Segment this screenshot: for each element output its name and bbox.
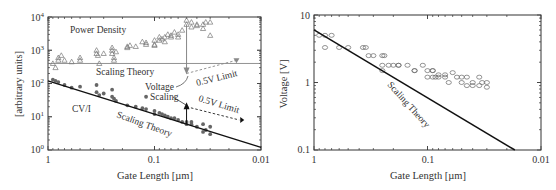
figure: 100 101 102 103 104 1 0.1 0.01 Gate Leng… (0, 0, 556, 190)
voltage-point (464, 75, 469, 79)
arrowhead-icon (233, 58, 239, 63)
power-density-point (59, 53, 64, 58)
power-density-point (95, 53, 100, 58)
left-ytick-3: 103 (31, 44, 45, 56)
right-ytick-2: 10 (300, 10, 310, 21)
power-density-point (162, 39, 167, 44)
annotation-limit-upper: 0.5V Limit (195, 68, 239, 88)
left-ytick-1: 101 (31, 110, 45, 122)
voltage-point (446, 81, 451, 85)
voltage-point (405, 63, 410, 67)
left-ytick-0: 100 (31, 143, 45, 155)
power-density-point (62, 58, 67, 63)
cvi-point (102, 92, 106, 96)
cvi-point (110, 88, 114, 92)
arrowhead-icon (184, 102, 190, 109)
arrowhead-icon (240, 117, 244, 123)
voltage-point (412, 69, 417, 73)
voltage-point (396, 63, 401, 67)
right-ticks (314, 15, 541, 150)
voltage-scaling-pointer-upper (176, 76, 188, 87)
right-data-points (317, 33, 490, 89)
right-xaxis-title: Gate Length [µm] (390, 170, 466, 181)
right-plot-frame (314, 15, 541, 150)
right-xtick-1: 0.1 (422, 154, 435, 165)
left-xtick-1: 0.1 (148, 154, 161, 165)
right-ytick-1: 1 (305, 77, 310, 88)
left-ytick-2: 102 (31, 77, 45, 89)
right-plot: 0.1 1 10 1 0.1 0.01 Gate Length [µm] Vol… (278, 10, 550, 181)
voltage-point (477, 75, 482, 79)
left-plot: 100 101 102 103 104 1 0.1 0.01 Gate Leng… (13, 11, 270, 181)
power-density-point (172, 30, 177, 35)
power-density-point (133, 44, 138, 49)
power-density-point (208, 33, 213, 38)
voltage-point (329, 33, 334, 37)
annotation-cvi: CV/I (72, 104, 91, 114)
cvi-point (144, 95, 148, 99)
cvi-point (95, 83, 99, 87)
voltage-point (484, 85, 489, 89)
cvi-point (201, 122, 205, 126)
power-density-point (180, 28, 185, 33)
cvi-point (95, 90, 99, 94)
voltage-point (380, 63, 385, 67)
left-yaxis-title: [arbitrary units] (13, 51, 24, 117)
left-xtick-2: 0.01 (252, 154, 270, 165)
scaling-theory-line-voltage (314, 30, 515, 150)
right-xtick-2: 0.01 (532, 154, 550, 165)
power-density-point (101, 51, 106, 56)
annotation-scaling: Scaling (150, 92, 179, 102)
cvi-point (208, 132, 212, 136)
cvi-point (190, 120, 194, 124)
voltage-point (425, 75, 430, 79)
voltage-point (459, 81, 464, 85)
annotation-limit-lower: 0.5V Limit (197, 93, 240, 115)
voltage-point (425, 69, 430, 73)
right-xtick-0: 1 (312, 154, 317, 165)
annotation-scaling-theory-upper: Scaling Theory (96, 67, 154, 77)
voltage-point (430, 69, 435, 73)
voltage-point (420, 63, 425, 67)
cvi-point (208, 125, 212, 129)
right-yaxis-title: Voltage [V] (278, 59, 289, 108)
power-density-point (189, 20, 194, 25)
voltage-point (450, 71, 455, 75)
power-density-point (208, 20, 213, 25)
annotation-voltage: Voltage (145, 82, 174, 92)
right-ytick-0: 0.1 (298, 144, 311, 155)
left-ytick-4: 104 (31, 11, 45, 23)
cvi-point (78, 85, 82, 89)
annotation-power-density: Power Density (70, 25, 126, 35)
left-xaxis-title: Gate Length [µm] (117, 170, 193, 181)
left-xtick-0: 1 (46, 154, 51, 165)
voltage-point (322, 46, 327, 50)
right-lines (314, 30, 515, 150)
arrowhead-icon (184, 67, 190, 74)
voltage-point (464, 84, 469, 88)
